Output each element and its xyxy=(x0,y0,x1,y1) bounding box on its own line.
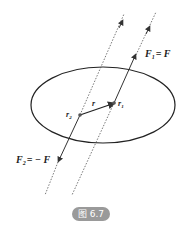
label-f1: F1= F xyxy=(144,48,171,60)
relative-position-vector xyxy=(80,104,112,115)
body-ellipse xyxy=(31,67,175,143)
action-line-1-arrow xyxy=(146,28,149,34)
point-r2 xyxy=(78,113,82,117)
label-r2: r2 xyxy=(66,110,72,120)
label-r: r xyxy=(92,99,96,108)
action-line-1-lower xyxy=(72,103,114,195)
force-pair-diagram: F1= F F2= − F r r1 r2 xyxy=(0,0,182,229)
label-f2: F2= − F xyxy=(15,154,50,166)
action-line-2-arrow xyxy=(119,22,122,28)
action-line-2-lower xyxy=(45,162,58,195)
force-vector-f2 xyxy=(59,115,80,160)
point-r1 xyxy=(112,101,116,105)
force-vector-f1 xyxy=(114,56,135,103)
label-r1: r1 xyxy=(118,99,124,109)
figure-caption: 图 6.7 xyxy=(72,207,110,221)
